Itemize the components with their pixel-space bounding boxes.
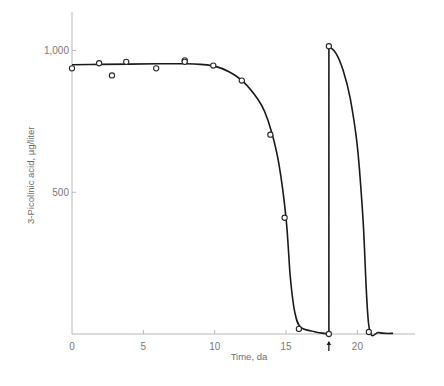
- x-tick-label: 10: [209, 341, 221, 352]
- data-point: [97, 61, 102, 66]
- x-axis-title: Time, da: [231, 351, 268, 362]
- data-point: [239, 78, 244, 83]
- data-point: [109, 73, 114, 78]
- data-point: [211, 63, 216, 68]
- annotations: [327, 341, 331, 351]
- axes: [72, 12, 415, 334]
- x-tick-label: 0: [69, 341, 75, 352]
- data-point: [69, 66, 74, 71]
- fitted-curve: [72, 46, 393, 336]
- data-point: [268, 132, 273, 137]
- data-point: [182, 59, 187, 64]
- data-point: [296, 326, 301, 331]
- data-point: [326, 44, 331, 49]
- x-tick-label: 20: [352, 341, 364, 352]
- y-tick-label: 500: [52, 187, 69, 198]
- chart: 05101520 5001,000 Time, da 3-Picolinic a…: [0, 0, 444, 386]
- x-tick-label: 15: [280, 341, 292, 352]
- data-point: [154, 66, 159, 71]
- data-point: [366, 329, 371, 334]
- data-point: [282, 215, 287, 220]
- curve-path: [72, 46, 393, 336]
- y-axis-title: 3-Picolinic acid, µg/liter: [25, 127, 36, 224]
- x-tick-label: 5: [141, 341, 147, 352]
- data-point: [326, 331, 331, 336]
- data-point: [124, 59, 129, 64]
- arrow-head: [327, 341, 331, 345]
- y-tick-label: 1,000: [44, 45, 69, 56]
- data-points: [69, 44, 371, 337]
